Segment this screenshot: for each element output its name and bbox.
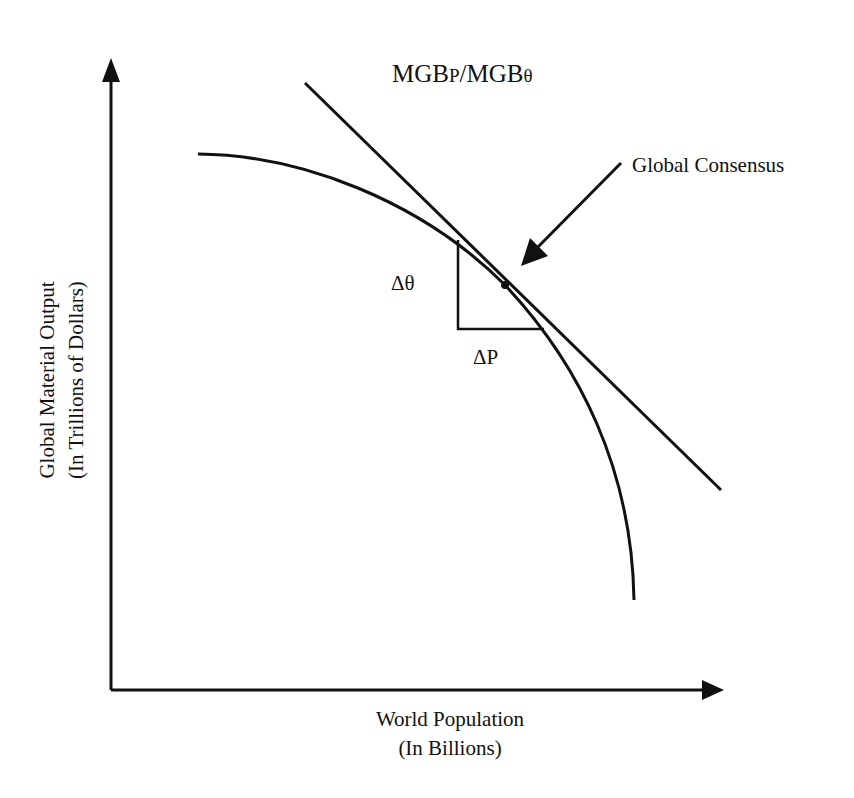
diagram-canvas: [0, 0, 854, 798]
y-axis-label-line1: Global Material Output: [33, 230, 62, 530]
ppf-curve: [198, 154, 634, 600]
chart-title: MGBP/MGBθ: [392, 60, 533, 88]
callout-arrow-line: [535, 163, 621, 250]
tangent-line: [305, 83, 721, 490]
x-axis-label: World Population (In Billions): [300, 705, 600, 763]
x-axis-label-line2: (In Billions): [300, 734, 600, 763]
delta-theta-label: Δθ: [391, 271, 415, 296]
x-axis-arrow-icon: [702, 680, 724, 700]
y-axis-label: Global Material Output (In Trillions of …: [33, 230, 91, 530]
title-subscript-theta: θ: [523, 65, 532, 86]
tangent-point: [501, 281, 509, 289]
title-subscript-p: P: [449, 65, 460, 86]
y-axis-label-line2: (In Trillions of Dollars): [62, 230, 91, 530]
global-consensus-label: Global Consensus: [632, 153, 784, 178]
x-axis-label-line1: World Population: [300, 705, 600, 734]
delta-p-label: ΔP: [473, 345, 498, 370]
y-axis-arrow-icon: [102, 58, 120, 82]
